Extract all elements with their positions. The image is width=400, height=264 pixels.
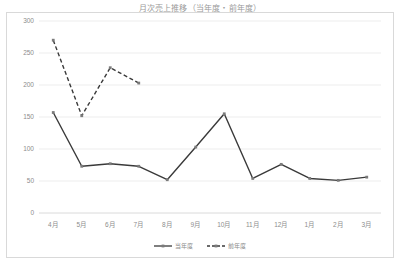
legend-swatch-solid-line-icon: [154, 243, 172, 249]
gridlines: [39, 21, 381, 213]
data-point-marker: [365, 176, 368, 179]
data-point-marker: [337, 179, 340, 182]
data-point-marker: [166, 178, 169, 181]
x-axis-tick-label: 5月: [76, 221, 87, 229]
line-chart-svg: 050100150200250300 4月5月6月7月8月9月10月11月12月…: [7, 13, 393, 257]
x-axis-tick-label: 8月: [162, 221, 173, 229]
x-axis-tick-labels: 4月5月6月7月8月9月10月11月12月1月2月3月: [48, 221, 372, 229]
x-axis-tick-label: 1月: [304, 221, 315, 229]
y-axis-tick-label: 100: [23, 145, 34, 152]
data-point-marker: [80, 165, 83, 168]
y-axis-tick-label: 0: [30, 209, 34, 216]
chart-card: 月次売上推移（当年度・前年度） 050100150200250300 4月5月6…: [0, 0, 400, 264]
data-point-marker: [52, 111, 55, 114]
data-point-marker: [52, 39, 55, 42]
y-axis-tick-labels: 050100150200250300: [23, 17, 34, 216]
x-axis-tick-label: 7月: [133, 221, 144, 229]
data-point-marker: [109, 162, 112, 165]
y-axis-tick-label: 50: [27, 177, 35, 184]
x-axis-tick-label: 6月: [105, 221, 116, 229]
data-point-marker: [137, 82, 140, 85]
series-layer: [53, 40, 367, 180]
series-line-previous-year: [53, 40, 139, 116]
data-point-marker: [194, 146, 197, 149]
series-line-current-year: [53, 113, 367, 181]
plot-area: 050100150200250300 4月5月6月7月8月9月10月11月12月…: [7, 13, 393, 257]
data-point-marker: [251, 177, 254, 180]
data-point-marker: [137, 165, 140, 168]
legend-swatch-dashed-line-icon: [207, 243, 225, 249]
y-axis-tick-label: 250: [23, 49, 34, 56]
chart-title: 月次売上推移（当年度・前年度）: [7, 4, 393, 13]
y-axis-tick-label: 150: [23, 113, 34, 120]
x-axis-tick-label: 12月: [274, 221, 288, 229]
data-point-marker: [308, 177, 311, 180]
x-axis-tick-label: 10月: [217, 221, 231, 229]
x-axis-tick-label: 11月: [246, 221, 260, 229]
y-axis-tick-label: 300: [23, 17, 34, 24]
data-point-marker: [80, 114, 83, 117]
chart-frame: 月次売上推移（当年度・前年度） 050100150200250300 4月5月6…: [6, 12, 394, 258]
x-axis-tick-label: 4月: [48, 221, 59, 229]
legend-label: 当年度: [175, 242, 193, 250]
legend-label: 前年度: [228, 242, 246, 250]
x-axis-tick-label: 2月: [333, 221, 344, 229]
legend-entry[interactable]: 当年度: [154, 242, 193, 250]
x-axis-tick-label: 9月: [190, 221, 201, 229]
chart-legend: 当年度前年度: [7, 241, 393, 251]
data-point-marker: [223, 112, 226, 115]
legend-entry[interactable]: 前年度: [207, 242, 246, 250]
y-axis-tick-label: 200: [23, 81, 34, 88]
data-point-marker: [109, 66, 112, 69]
x-axis-tick-label: 3月: [361, 221, 372, 229]
data-point-marker: [280, 163, 283, 166]
data-point-markers: [52, 39, 368, 182]
